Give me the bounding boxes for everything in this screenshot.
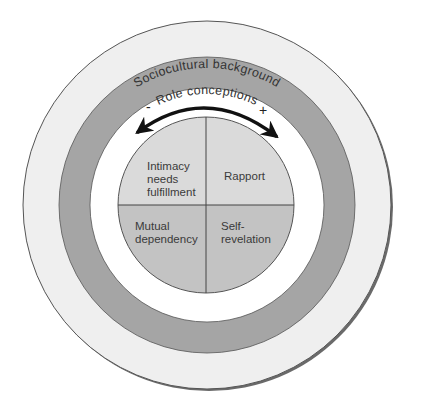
pie-chart — [118, 117, 294, 293]
intimacy-wheel-diagram: Sociocultural background Role conception… — [0, 0, 442, 413]
minus-sign: - — [146, 99, 151, 115]
quadrant-label-rapport: Rapport — [224, 170, 266, 182]
plus-sign: + — [259, 102, 267, 118]
